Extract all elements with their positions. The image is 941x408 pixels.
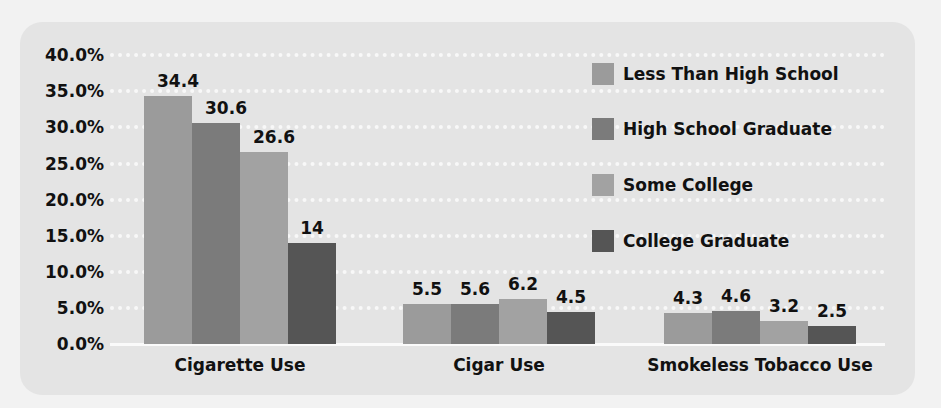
bar — [547, 312, 595, 344]
bar — [664, 313, 712, 344]
bar — [144, 96, 192, 344]
y-axis-tick-label: 10.0% — [14, 262, 104, 282]
bar — [240, 152, 288, 344]
bar-value-label: 2.5 — [802, 301, 862, 321]
bar — [499, 299, 547, 344]
y-axis-tick-label: 35.0% — [14, 81, 104, 101]
legend-swatch — [592, 63, 614, 85]
y-axis-tick-label: 30.0% — [14, 117, 104, 137]
y-axis-tick-label: 5.0% — [14, 298, 104, 318]
bar — [192, 123, 240, 344]
y-axis-tick-label: 15.0% — [14, 226, 104, 246]
bar — [760, 321, 808, 344]
gridline — [110, 89, 885, 93]
legend-swatch — [592, 230, 614, 252]
bar — [451, 304, 499, 344]
legend-item: High School Graduate — [592, 117, 832, 141]
legend-swatch — [592, 118, 614, 140]
bar — [712, 311, 760, 344]
bar-value-label: 14 — [282, 218, 342, 238]
legend-swatch — [592, 174, 614, 196]
x-axis-category-label: Smokeless Tobacco Use — [630, 355, 890, 375]
legend-label: College Graduate — [623, 231, 789, 251]
x-axis-category-label: Cigarette Use — [110, 355, 370, 375]
bar — [288, 243, 336, 344]
gridline — [110, 53, 885, 57]
y-axis-tick-label: 20.0% — [14, 190, 104, 210]
bar-value-label: 30.6 — [196, 98, 256, 118]
legend-item: Less Than High School — [592, 62, 839, 86]
legend-item: College Graduate — [592, 229, 789, 253]
y-axis-tick-label: 25.0% — [14, 154, 104, 174]
bar-value-label: 34.4 — [148, 71, 208, 91]
y-axis-tick-label: 0.0% — [14, 334, 104, 354]
legend-item: Some College — [592, 173, 753, 197]
x-axis-category-label: Cigar Use — [369, 355, 629, 375]
bar — [403, 304, 451, 344]
legend-label: High School Graduate — [623, 119, 832, 139]
y-axis-tick-label: 40.0% — [14, 45, 104, 65]
bar-value-label: 4.5 — [541, 287, 601, 307]
bar-value-label: 26.6 — [244, 127, 304, 147]
legend-label: Less Than High School — [623, 64, 839, 84]
legend-label: Some College — [623, 175, 753, 195]
bar — [808, 326, 856, 344]
